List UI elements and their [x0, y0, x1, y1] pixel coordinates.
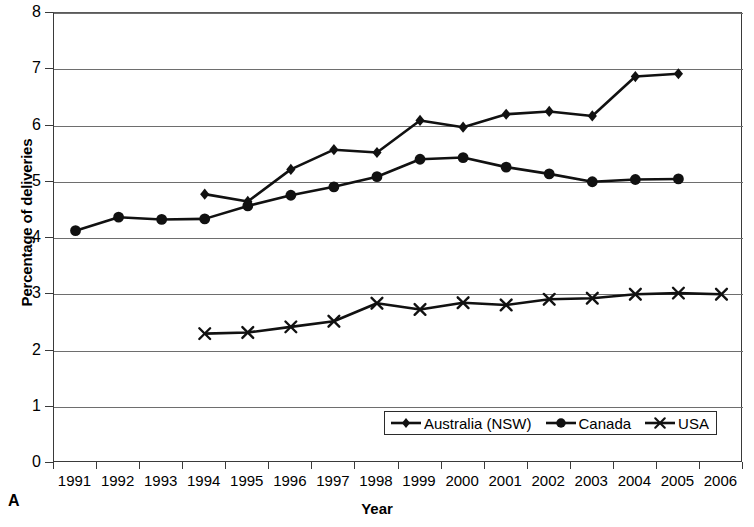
y-axis-tick [45, 462, 53, 463]
y-axis-tick [45, 181, 53, 182]
y-axis-tick [45, 350, 53, 351]
y-axis-tick [45, 68, 53, 69]
y-axis-tick-label: 7 [11, 60, 41, 76]
legend-marker-diamond-icon [390, 415, 422, 431]
x-axis-tick-label: 1998 [354, 472, 397, 489]
chart-legend: Australia (NSW)CanadaUSA [384, 411, 717, 435]
x-axis-tick-label: 1996 [268, 472, 311, 489]
data-point-diamond [200, 189, 209, 200]
series-line [205, 74, 679, 202]
x-axis-tick [527, 462, 528, 469]
x-axis-tick-label: 1992 [96, 472, 139, 489]
data-point-circle [556, 418, 566, 428]
data-point-circle [70, 225, 81, 236]
x-axis-tick [699, 462, 700, 469]
x-axis-tick-label: 1991 [53, 472, 96, 489]
y-axis-tick-label: 6 [11, 117, 41, 133]
x-axis-tick [225, 462, 226, 469]
x-axis-tick [311, 462, 312, 469]
data-point-circle [587, 176, 598, 187]
x-axis-tick [53, 462, 54, 469]
legend-label: USA [678, 416, 709, 431]
x-axis-tick-label: 2002 [527, 472, 570, 489]
x-axis-tick-label: 2005 [656, 472, 699, 489]
y-axis-tick [45, 125, 53, 126]
x-axis-tick [570, 462, 571, 469]
series-layer [54, 13, 743, 463]
series-1 [70, 152, 684, 236]
y-axis-tick-label: 3 [11, 285, 41, 301]
data-point-diamond [545, 106, 554, 117]
data-point-circle [372, 171, 383, 182]
series-2 [199, 288, 727, 339]
y-axis-tick-label: 5 [11, 173, 41, 189]
x-axis-tick-label: 1993 [139, 472, 182, 489]
chart-figure: Percentage of deliveries 012345678 19911… [0, 0, 754, 527]
x-axis-tick-label: 2003 [570, 472, 613, 489]
data-point-circle [285, 190, 296, 201]
x-axis-tick-label: 1995 [225, 472, 268, 489]
x-axis-tick-label: 2000 [441, 472, 484, 489]
data-point-circle [544, 168, 555, 179]
data-point-circle [242, 201, 253, 212]
data-point-circle [113, 212, 124, 223]
data-point-diamond [402, 418, 410, 428]
legend-item-2: USA [644, 415, 709, 431]
x-axis-tick [613, 462, 614, 469]
data-point-circle [156, 214, 167, 225]
y-axis-tick-label: 4 [11, 229, 41, 245]
y-axis-tick [45, 12, 53, 13]
panel-label: A [8, 492, 20, 510]
data-point-diamond [674, 68, 683, 79]
plot-area [53, 12, 742, 462]
data-point-diamond [459, 122, 468, 133]
x-axis-tick-label: 2006 [699, 472, 742, 489]
x-axis-tick-label: 1999 [398, 472, 441, 489]
y-axis-tick [45, 293, 53, 294]
y-axis-tick-label: 2 [11, 342, 41, 358]
y-axis-tick [45, 237, 53, 238]
x-axis-tick [484, 462, 485, 469]
legend-marker-circle-icon [545, 415, 577, 431]
x-axis-tick-label: 2001 [484, 472, 527, 489]
x-axis-title: Year [0, 500, 754, 517]
y-axis-tick [45, 406, 53, 407]
data-point-diamond [329, 144, 338, 155]
x-axis-tick [139, 462, 140, 469]
y-axis-tick-label: 8 [11, 4, 41, 20]
x-axis-tick [398, 462, 399, 469]
x-axis-tick [268, 462, 269, 469]
series-line [205, 293, 722, 334]
y-axis-tick-label: 0 [11, 454, 41, 470]
data-point-circle [673, 174, 684, 185]
x-axis-tick [441, 462, 442, 469]
x-axis-tick [656, 462, 657, 469]
legend-item-0: Australia (NSW) [390, 415, 532, 431]
data-point-circle [458, 152, 469, 163]
series-0 [200, 68, 683, 207]
x-axis-tick-label: 2004 [613, 472, 656, 489]
data-point-circle [630, 174, 641, 185]
legend-marker-x-icon [644, 415, 676, 431]
data-point-circle [415, 154, 426, 165]
data-point-circle [199, 213, 210, 224]
data-point-circle [329, 181, 340, 192]
x-axis-tick [742, 462, 743, 469]
x-axis-tick-label: 1994 [182, 472, 225, 489]
legend-label: Canada [579, 416, 632, 431]
x-axis-tick-label: 1997 [311, 472, 354, 489]
legend-label: Australia (NSW) [424, 416, 532, 431]
data-point-diamond [502, 109, 511, 120]
x-axis-tick [182, 462, 183, 469]
y-axis-tick-label: 1 [11, 398, 41, 414]
legend-item-1: Canada [545, 415, 632, 431]
x-axis-tick [96, 462, 97, 469]
x-axis-tick [354, 462, 355, 469]
data-point-circle [501, 162, 512, 173]
